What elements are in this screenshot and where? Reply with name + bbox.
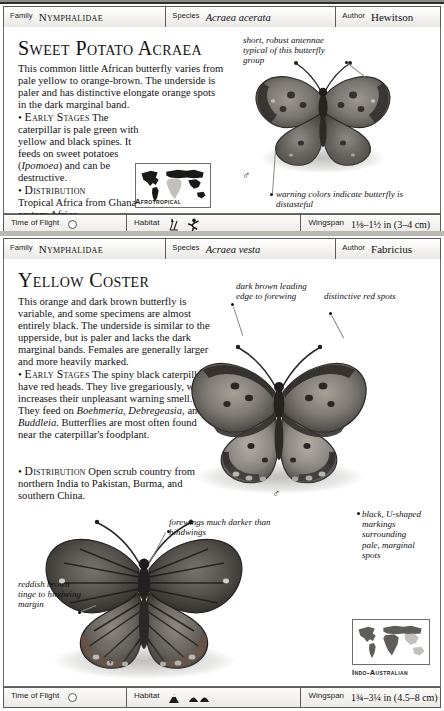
author-cell: Author Hewitson xyxy=(335,7,440,27)
author-label: Author xyxy=(342,11,365,20)
specimen-shadow-2b xyxy=(54,643,236,679)
callout-u-shaped-markings-dot xyxy=(357,512,360,515)
habitat-label: Habitat xyxy=(134,218,159,227)
page-title: Sweet Potato Acraea xyxy=(18,37,202,60)
species-label: Species xyxy=(172,11,199,20)
time-of-flight-label-2: Time of Flight xyxy=(11,691,59,700)
grass-icon xyxy=(168,218,181,231)
world-map-svg-2 xyxy=(353,620,429,664)
distribution-bullet-2: • xyxy=(18,465,25,477)
species-label-2: Species xyxy=(172,243,199,252)
map-caption-indo-australian: Indo-Australian xyxy=(352,668,408,677)
callout-red-spots: distinctive red spots xyxy=(324,291,396,301)
foodplant-buddleia: Buddleia xyxy=(18,417,56,428)
entry-1-header-bar: Family Nymphalidae Species Acraea acerat… xyxy=(3,6,441,28)
callout-antennae-text: short, robust antennae typical of this b… xyxy=(243,35,325,65)
early-stages-bullet: • xyxy=(18,111,25,123)
entry-2-sheet: Yellow Coster This orange and dark brown… xyxy=(3,259,441,687)
species-value-2: Acraea vesta xyxy=(206,244,261,255)
time-of-flight-label: Time of Flight xyxy=(11,218,59,227)
page-title-2: Yellow Coster xyxy=(18,269,149,292)
callout-leading-edge-leader xyxy=(233,307,243,336)
time-of-flight-cell-2: Time of Flight xyxy=(4,688,126,707)
map-caption-afrotropical: Afrotropical xyxy=(135,197,181,206)
callout-reddish-tinge: reddish brown tinge to hindwing margin xyxy=(18,579,84,610)
callout-forewings-darker-dot xyxy=(167,530,170,533)
author-value-2: Fabricius xyxy=(371,243,412,255)
entry-yellow-coster: Family Nymphalidae Species Acraea vesta … xyxy=(0,238,444,711)
callout-leading-edge: dark brown leading edge to forewing xyxy=(236,281,318,301)
callout-forewings-darker: forewings much darker than hindwings xyxy=(169,517,291,537)
distribution-bullet: • xyxy=(18,184,25,196)
callout-leading-edge-text: dark brown leading edge to forewing xyxy=(236,281,307,301)
family-cell-2: Family Nymphalidae xyxy=(4,239,165,259)
author-label-2: Author xyxy=(342,243,365,252)
wingspan-value-2: 1¾–3¼ in (4.5–8 cm) xyxy=(351,692,438,703)
wingspan-label: Wingspan xyxy=(308,218,344,227)
early-stages-label-2: Early Stages xyxy=(25,368,90,381)
field-guide-page: Family Nymphalidae Species Acraea acerat… xyxy=(0,0,444,711)
entry-separator xyxy=(0,231,444,236)
entry-1-sheet: Sweet Potato Acraea This common little A… xyxy=(3,27,441,214)
family-value-2: Nymphalidae xyxy=(39,243,103,255)
mountain-icon xyxy=(168,692,182,704)
wingspan-cell-2: Wingspan 1¾–3¼ in (4.5–8 cm) xyxy=(300,688,440,707)
callout-u-shaped-markings-text: black, U-shaped markings surrounding pal… xyxy=(362,509,421,560)
early-stages-label: Early Stages xyxy=(25,111,90,124)
runner-icon xyxy=(186,218,199,232)
distribution-label: Distribution xyxy=(25,184,86,197)
callout-leading-edge-dot xyxy=(231,303,234,306)
sun-icon-2 xyxy=(68,693,77,702)
sex-symbol-female-2: ♀ xyxy=(106,655,114,667)
description-text: This common little African butterfly var… xyxy=(18,63,225,111)
callout-u-shaped-markings: black, U-shaped markings surrounding pal… xyxy=(362,509,424,560)
species-cell: Species Acraea acerata xyxy=(165,7,335,27)
author-value: Hewitson xyxy=(371,11,413,23)
author-cell-2: Author Fabricius xyxy=(335,239,440,259)
foodplant-ipomoea: Ipomoea xyxy=(22,160,59,171)
family-label: Family xyxy=(10,11,33,20)
specimen-vesta-male xyxy=(179,334,379,504)
sex-symbol-male-2: ♂ xyxy=(272,487,280,499)
entry-1-early-stages: • Early Stages The caterpillar is pale g… xyxy=(18,112,148,183)
callout-warning-colors-dot xyxy=(270,193,273,196)
early-stages-bullet-2: • xyxy=(18,368,25,380)
wingspan-value: 1⅛–1½ in (3–4 cm) xyxy=(351,219,430,230)
callout-warning-colors-text: warning colors indicate butterfly is dis… xyxy=(276,189,403,209)
family-label-2: Family xyxy=(10,243,33,252)
entry-2-footer-bar: Time of Flight Habitat Wingspan 1¾–3¼ in… xyxy=(3,687,441,708)
callout-red-spots-text: distinctive red spots xyxy=(324,291,396,301)
entry-1-distribution: • Distribution xyxy=(18,185,148,197)
foodplant-debregeasia: Debregeasia xyxy=(128,405,182,416)
specimen-acraea-acerata xyxy=(247,51,397,181)
specimen-shadow xyxy=(261,143,385,173)
habitat-cell-2: Habitat xyxy=(126,688,300,707)
species-cell-2: Species Acraea vesta xyxy=(165,239,335,259)
callout-warning-colors: warning colors indicate butterfly is dis… xyxy=(276,189,426,209)
family-value: Nymphalidae xyxy=(39,11,103,23)
callout-reddish-tinge-text: reddish brown tinge to hindwing margin xyxy=(18,579,81,609)
entry-2-header-bar: Family Nymphalidae Species Acraea vesta … xyxy=(3,238,441,260)
sex-symbol-male-1: ♂ xyxy=(242,169,250,181)
page-top-rule xyxy=(0,0,444,4)
entry-sweet-potato-acraea: Family Nymphalidae Species Acraea acerat… xyxy=(0,6,444,238)
family-cell: Family Nymphalidae xyxy=(4,7,165,27)
callout-forewings-darker-text: forewings much darker than hindwings xyxy=(169,517,270,537)
distribution-label-2: Distribution xyxy=(25,465,86,478)
callout-antennae: short, robust antennae typical of this b… xyxy=(243,35,347,66)
distribution-map-indo-australian xyxy=(352,619,430,665)
foodplant-boehmeria: Boehmeria xyxy=(77,405,123,416)
wingspan-label-2: Wingspan xyxy=(308,691,344,700)
habitat-label-2: Habitat xyxy=(134,691,159,700)
species-value: Acraea acerata xyxy=(206,12,271,23)
sun-icon xyxy=(68,220,77,229)
hills-icon xyxy=(189,693,211,703)
entry-1-description: This common little African butterfly var… xyxy=(18,63,225,111)
